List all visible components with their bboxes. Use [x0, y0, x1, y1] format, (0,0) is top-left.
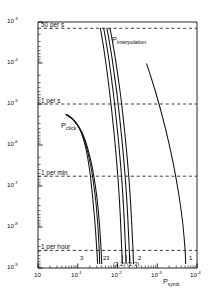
- y-tick-label-5: 10-8: [7, 223, 18, 229]
- x-tick-exp-3: -3: [158, 270, 162, 275]
- x-tick-label-3: 10-3: [151, 272, 162, 278]
- annotation-p-interpolation-sub: interpolation: [117, 39, 146, 45]
- series-tag-click-3: 3: [80, 255, 83, 261]
- x-tick-label-1: 10-1: [71, 272, 82, 278]
- annotation-p-interpolation: Pinterpolation: [112, 36, 146, 43]
- data-curves: [66, 28, 186, 263]
- series-tag-interp-1: 1: [189, 255, 192, 261]
- figure-container: 10-3 10-4 10-5 10-6 10-7 10-8 10-9 10 10…: [0, 0, 211, 297]
- series-tag-interp-32: (3,2): [113, 261, 125, 267]
- y-tick-label-6: 10-9: [7, 264, 18, 270]
- y-tick-exp-3: -6: [14, 139, 18, 144]
- curve-interp-2: [110, 28, 134, 263]
- y-tick-label-4: 10-7: [7, 182, 18, 188]
- rate-label-1-per-min: 1 per min: [41, 170, 68, 176]
- annotation-p-click: Pclick: [61, 122, 76, 129]
- x-axis-title: Psymb: [163, 278, 180, 285]
- x-tick-exp-2: -2: [118, 270, 122, 275]
- x-tick-label-0: 10: [34, 272, 41, 278]
- y-tick-exp-1: -4: [14, 57, 18, 62]
- curve-interp-1: [147, 64, 186, 264]
- annotation-p-click-sub: click: [66, 125, 76, 131]
- series-tag-interp-23: (2,3): [127, 261, 139, 267]
- y-tick-label-2: 10-5: [7, 100, 18, 106]
- y-tick-exp-5: -8: [14, 221, 18, 226]
- y-tick-exp-6: -9: [14, 262, 18, 267]
- x-tick-label-4: 10-4: [190, 272, 201, 278]
- curve-click-3: [66, 115, 100, 264]
- x-axis-title-sub: symb: [168, 281, 180, 287]
- y-tick-exp-0: -3: [14, 16, 18, 21]
- plot-canvas: [0, 0, 211, 297]
- rate-label-50-per-s: 50 per s: [41, 22, 64, 28]
- series-tag-interp-2: 2: [138, 255, 141, 261]
- reference-lines: [38, 28, 197, 250]
- x-tick-exp-4: -4: [197, 270, 201, 275]
- y-tick-exp-4: -7: [14, 180, 18, 185]
- x-tick-label-2: 10-2: [111, 272, 122, 278]
- y-tick-label-1: 10-4: [7, 59, 18, 65]
- y-tick-exp-2: -5: [14, 98, 18, 103]
- x-tick-exp-1: -1: [78, 270, 82, 275]
- rate-label-1-per-hour: 1 per hour: [41, 244, 70, 250]
- rate-label-1-per-s: 1 per s: [41, 98, 61, 104]
- y-tick-label-0: 10-3: [7, 18, 18, 24]
- y-tick-label-3: 10-6: [7, 141, 18, 147]
- axes-frame: [38, 22, 197, 268]
- curve-p-click: [66, 115, 97, 264]
- series-tag-interp-3: 3: [106, 255, 109, 261]
